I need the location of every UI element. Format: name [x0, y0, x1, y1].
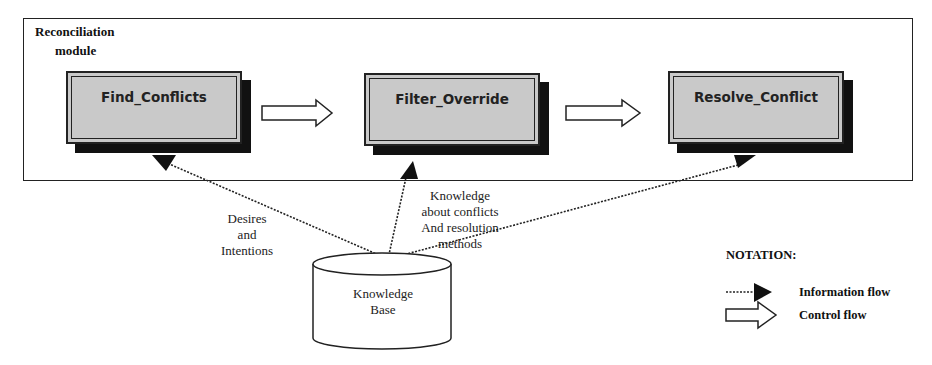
arrowhead-find-conflicts: [152, 155, 176, 171]
knowledge-line4: methods: [410, 236, 510, 252]
desires-line1: Desires: [212, 211, 282, 227]
desires-line2: and: [212, 227, 282, 243]
reconciliation-diagram: Reconciliation module Find_Conflicts Fil…: [0, 0, 932, 365]
knowledge-base-line1: Knowledge: [333, 286, 433, 302]
diagram-connectors: [0, 0, 932, 365]
legend-title: NOTATION:: [726, 248, 796, 263]
process-label: Resolve_Conflict: [668, 89, 844, 105]
desires-line3: Intentions: [212, 243, 282, 259]
control-flow-arrow-2: [566, 100, 640, 126]
knowledge-base-label: Knowledge Base: [333, 286, 433, 318]
hollow-arrow-icon: [726, 302, 776, 328]
knowledge-base-line2: Base: [333, 302, 433, 318]
process-label: Filter_Override: [364, 91, 540, 107]
legend-information-flow-label: Information flow: [799, 285, 890, 300]
info-flow-arrowheads: [152, 155, 756, 179]
process-label: Find_Conflicts: [66, 89, 242, 105]
knowledge-line3: And resolution: [410, 220, 510, 236]
dotted-arrow-icon: [726, 283, 772, 302]
knowledge-line1: Knowledge: [410, 188, 510, 204]
control-flow-arrow-1: [262, 100, 332, 126]
arrowhead-filter-override: [400, 161, 418, 179]
legend-control-flow-label: Control flow: [799, 308, 866, 323]
knowledge-about-conflicts-label: Knowledge about conflicts And resolution…: [410, 188, 510, 252]
knowledge-line2: about conflicts: [410, 204, 510, 220]
arrowhead-resolve-conflict: [734, 155, 756, 168]
desires-label: Desires and Intentions: [212, 211, 282, 259]
